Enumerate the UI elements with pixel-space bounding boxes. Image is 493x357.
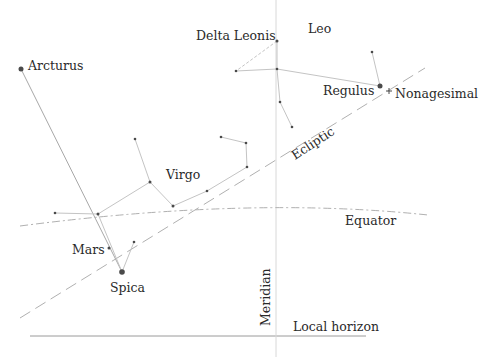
label-nonagesimal: Nonagesimal — [395, 86, 478, 101]
celestial-diagram: Arcturus Delta Leonis Leo Regulus Nonage… — [0, 0, 493, 357]
label-arcturus: Arcturus — [27, 58, 84, 73]
label-local-horizon: Local horizon — [293, 319, 379, 334]
label-regulus: Regulus — [323, 83, 374, 98]
label-delta-leonis: Delta Leonis — [196, 28, 276, 43]
label-spica: Spica — [110, 280, 146, 295]
label-meridian: Meridian — [258, 268, 273, 326]
star-regulus — [378, 84, 383, 89]
label-leo: Leo — [308, 21, 331, 36]
stars — [19, 40, 383, 275]
label-equator: Equator — [345, 213, 396, 228]
star-delta-leonis — [276, 40, 279, 43]
planet-mars — [108, 247, 111, 250]
label-ecliptic: Ecliptic — [288, 124, 337, 163]
label-virgo: Virgo — [165, 167, 200, 182]
star-arcturus — [19, 67, 24, 72]
star-spica — [119, 269, 125, 275]
ecliptic-line — [20, 68, 425, 318]
label-mars: Mars — [72, 242, 105, 257]
